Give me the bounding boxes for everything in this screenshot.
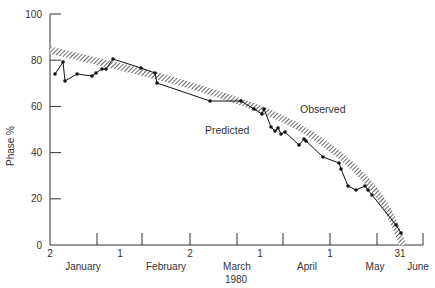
observed-point <box>354 188 358 192</box>
predicted-series-band <box>50 50 403 245</box>
observed-point <box>339 167 343 171</box>
observed-annotation: Observed <box>300 103 346 115</box>
x-axis <box>50 233 423 245</box>
observed-point <box>399 231 403 235</box>
y-tick-labels: 020406080100 <box>25 9 42 251</box>
observed-point <box>75 72 79 76</box>
observed-point <box>94 71 98 75</box>
observed-point <box>252 107 256 111</box>
observed-point <box>155 81 159 85</box>
y-tick-label: 80 <box>31 55 43 66</box>
month-label: May <box>366 261 385 272</box>
observed-point <box>260 112 264 116</box>
predicted-annotation: Predicted <box>205 124 250 136</box>
observed-point <box>394 223 398 227</box>
observed-series-line <box>55 59 401 233</box>
observed-point <box>262 107 266 111</box>
observed-point <box>304 139 308 143</box>
phase-chart: Phase % 1980 020406080100 2121131 Januar… <box>0 0 435 288</box>
month-label: February <box>146 261 186 272</box>
x-tick-label: 1 <box>327 248 333 259</box>
month-label: April <box>297 261 317 272</box>
observed-point <box>63 79 67 83</box>
observed-point <box>139 66 143 70</box>
x-tick-label: 1 <box>257 248 263 259</box>
x-tick-label: 2 <box>47 248 53 259</box>
observed-point <box>279 132 283 136</box>
observed-point <box>321 155 325 159</box>
observed-point <box>346 184 350 188</box>
x-tick-label: 31 <box>394 248 406 259</box>
y-axis-title: Phase % <box>5 126 16 166</box>
observed-point <box>273 129 277 133</box>
observed-point <box>90 74 94 78</box>
observed-point <box>61 60 65 64</box>
observed-point <box>297 143 301 147</box>
month-label: June <box>407 261 429 272</box>
observed-point <box>283 130 287 134</box>
y-tick-label: 0 <box>36 240 42 251</box>
x-axis-title: 1980 <box>225 274 248 285</box>
observed-point <box>370 193 374 197</box>
x-tick-label: 2 <box>187 248 193 259</box>
y-tick-label: 100 <box>25 9 42 20</box>
observed-series-markers <box>53 57 403 235</box>
observed-point <box>53 72 57 76</box>
observed-point <box>100 67 104 71</box>
observed-point <box>269 125 273 129</box>
observed-point <box>111 57 115 61</box>
y-tick-label: 20 <box>31 193 43 204</box>
observed-point <box>239 99 243 103</box>
month-label: March <box>223 261 251 272</box>
x-tick-labels: 2121131 <box>47 248 406 259</box>
observed-point <box>363 184 367 188</box>
observed-point <box>366 188 370 192</box>
x-tick-label: 1 <box>117 248 123 259</box>
observed-point <box>337 161 341 165</box>
month-labels: JanuaryFebruaryMarchAprilMayJune <box>65 261 429 272</box>
month-label: January <box>65 261 101 272</box>
observed-point <box>208 99 212 103</box>
y-tick-label: 60 <box>31 101 43 112</box>
observed-point <box>153 71 157 75</box>
observed-point <box>104 67 108 71</box>
observed-point <box>276 126 280 130</box>
y-tick-label: 40 <box>31 147 43 158</box>
